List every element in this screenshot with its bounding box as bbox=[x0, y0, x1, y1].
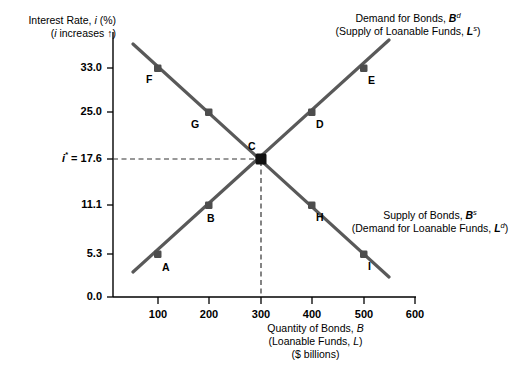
x-axis-title-line3: ($ billions) bbox=[292, 348, 340, 360]
y-tick-label-11: 11.1 bbox=[50, 198, 102, 210]
marker-B bbox=[205, 202, 213, 210]
point-label-E: E bbox=[368, 74, 375, 86]
x-tick-label-200: 200 bbox=[189, 308, 229, 320]
marker-D bbox=[308, 109, 316, 117]
marker-G bbox=[205, 109, 213, 117]
point-label-D: D bbox=[316, 118, 324, 130]
y-tick-label-5: 5.3 bbox=[50, 247, 102, 259]
x-axis-ticks bbox=[158, 297, 415, 304]
point-label-F: F bbox=[146, 73, 152, 85]
equilibrium-guides bbox=[113, 159, 261, 297]
y-axis-title: Interest Rate, i (%) (i increases ↑) bbox=[8, 14, 116, 40]
demand-label-line2: (Supply of Loanable Funds, Ls) bbox=[335, 25, 480, 37]
supply-of-bonds-label: Supply of Bonds, Bs (Demand for Loanable… bbox=[340, 209, 520, 235]
x-tick-label-100: 100 bbox=[138, 308, 178, 320]
demand-for-bonds-label: Demand for Bonds, Bd (Supply of Loanable… bbox=[297, 12, 519, 38]
marker-H bbox=[308, 202, 316, 210]
point-label-C: C bbox=[248, 140, 256, 152]
x-tick-label-500: 500 bbox=[344, 308, 384, 320]
point-label-I: I bbox=[368, 260, 371, 272]
x-tick-label-300: 300 bbox=[241, 308, 281, 320]
demand-label-line1: Demand for Bonds, Bd bbox=[355, 12, 460, 24]
marker-F bbox=[154, 65, 162, 73]
y-axis-ticks bbox=[107, 68, 113, 297]
marker-C-equilibrium bbox=[256, 154, 267, 165]
y-tick-label-0: 0.0 bbox=[50, 290, 102, 302]
x-tick-label-600: 600 bbox=[395, 308, 435, 320]
point-label-H: H bbox=[316, 211, 324, 223]
y-axis-title-line1: Interest Rate, i (%) bbox=[28, 14, 116, 26]
y-tick-label-33: 33.0 bbox=[50, 61, 102, 73]
marker-E bbox=[360, 65, 368, 73]
y-tick-label-equilibrium: i* = 17.6 bbox=[40, 152, 102, 164]
marker-A bbox=[154, 251, 162, 259]
x-tick-label-400: 400 bbox=[292, 308, 332, 320]
supply-label-line1: Supply of Bonds, Bs bbox=[383, 209, 477, 221]
x-axis-title-line2: (Loanable Funds, L) bbox=[269, 335, 363, 347]
y-axis-title-line2: (i increases ↑) bbox=[51, 27, 116, 39]
marker-I bbox=[360, 251, 368, 259]
point-label-G: G bbox=[191, 118, 199, 130]
supply-label-line2: (Demand for Loanable Funds, Ld) bbox=[352, 222, 509, 234]
y-tick-label-25: 25.0 bbox=[50, 105, 102, 117]
x-axis-title: Quantity of Bonds, B (Loanable Funds, L)… bbox=[228, 322, 403, 361]
bond-market-chart: Interest Rate, i (%) (i increases ↑) 33.… bbox=[0, 0, 524, 367]
point-label-B: B bbox=[207, 212, 215, 224]
point-label-A: A bbox=[162, 261, 170, 273]
x-axis-title-line1: Quantity of Bonds, B bbox=[267, 322, 363, 334]
